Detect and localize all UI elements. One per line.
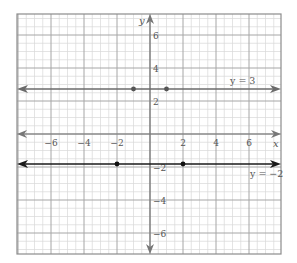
y-tick-label: −4	[153, 196, 167, 206]
point-2-neg2	[181, 162, 186, 167]
point-neg2-neg2	[115, 162, 120, 167]
x-tick-label: 2	[180, 138, 186, 148]
point-neg1-3	[131, 87, 136, 92]
y-axis-label: y	[138, 15, 145, 26]
x-tick-label: 6	[246, 138, 252, 148]
x-tick-label: −4	[77, 138, 91, 148]
y-tick-label: 2	[153, 97, 159, 107]
x-tick-label: 4	[213, 138, 219, 148]
y-tick-label: 6	[153, 31, 159, 41]
y-tick-label: 4	[153, 64, 159, 74]
x-tick-label: −6	[44, 138, 58, 148]
x-axis-label: x	[273, 138, 279, 149]
line-label-yneg2: y = −2	[249, 168, 283, 179]
point-1-3	[164, 87, 169, 92]
line-label-y3: y = 3	[229, 75, 255, 86]
x-tick-label: −2	[110, 138, 123, 148]
coordinate-plane: x y −6−4−2246 642−2−4−6 y = 3 y = −2	[0, 0, 297, 263]
y-tick-label: −6	[153, 229, 167, 239]
